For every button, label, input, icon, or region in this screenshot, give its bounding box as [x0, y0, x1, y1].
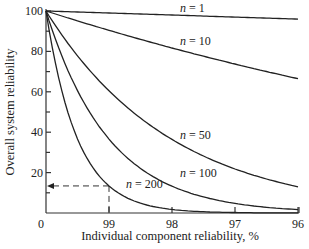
- x-tick-label: 96: [292, 217, 304, 231]
- y-axis-title: Overall system reliability: [3, 48, 17, 176]
- x-ticks: 099989796: [38, 207, 304, 231]
- curve-n1: [46, 11, 298, 19]
- y-tick-label: 80: [31, 44, 43, 58]
- curve-n200: [46, 11, 298, 213]
- curve-n50: [46, 11, 298, 187]
- y-ticks: 10080604020: [25, 4, 51, 193]
- y-tick-label: 40: [31, 125, 43, 139]
- curves: [46, 11, 298, 213]
- curve-n100: [46, 11, 298, 210]
- y-tick-label: 20: [31, 166, 43, 180]
- x-axis-title: Individual component reliability, %: [81, 229, 259, 243]
- dashed-guide: [47, 183, 109, 213]
- x-tick-label: 0: [38, 217, 44, 231]
- y-tick-label: 60: [31, 85, 43, 99]
- arrow-left-icon: [47, 183, 54, 189]
- label-n10: n = 10: [180, 34, 211, 48]
- label-n200: n = 200: [126, 177, 163, 191]
- label-n100: n = 100: [180, 166, 217, 180]
- reliability-chart: 10080604020 099989796 n = 1 n = 10 n = 5…: [0, 0, 309, 249]
- label-n50: n = 50: [180, 128, 211, 142]
- label-n1: n = 1: [180, 1, 205, 15]
- curve-n10: [46, 11, 298, 79]
- y-tick-label: 100: [25, 4, 43, 18]
